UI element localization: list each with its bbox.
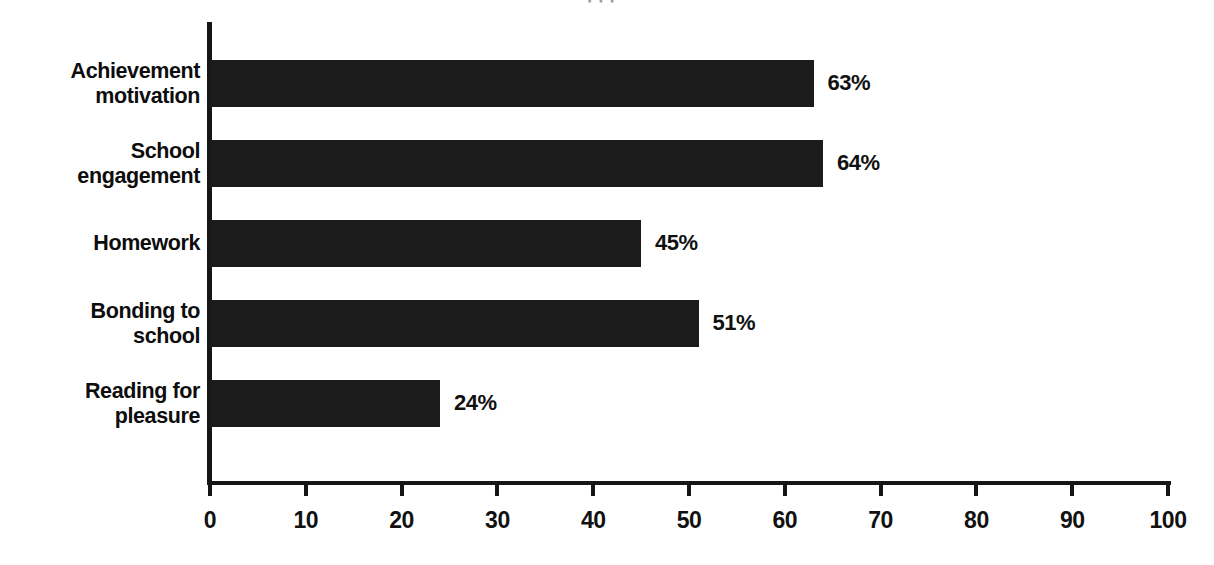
bar-1[interactable] [210,140,823,187]
x-tick-label-50: 50 [649,507,729,534]
x-tick-90 [1070,483,1074,496]
bar-value-label-4: 24% [454,390,497,416]
x-tick-0 [208,483,212,496]
x-tick-label-80: 80 [936,507,1016,534]
x-tick-label-60: 60 [745,507,825,534]
x-tick-label-10: 10 [266,507,346,534]
x-tick-70 [879,483,883,496]
x-tick-100 [1166,483,1170,496]
x-tick-label-90: 90 [1032,507,1112,534]
bar-chart: ' ' ' , 0102030405060708090100 Achieveme… [0,0,1214,565]
bar-0[interactable] [210,60,814,107]
x-tick-60 [783,483,787,496]
bar-row: School engagement64% [0,126,1214,187]
category-label-3: Bonding to school [0,299,200,349]
category-label-0: Achievement motivation [0,59,200,109]
bar-value-label-3: 51% [713,310,756,336]
x-tick-10 [304,483,308,496]
category-label-1: School engagement [0,139,200,189]
cropped-title-remnant: ' ' ' , [0,0,1214,7]
bar-row: Reading for pleasure24% [0,366,1214,427]
x-tick-label-30: 30 [457,507,537,534]
x-tick-label-0: 0 [170,507,250,534]
x-tick-label-100: 100 [1128,507,1208,534]
bar-value-label-2: 45% [655,230,698,256]
bar-row: Homework45% [0,206,1214,267]
x-tick-80 [974,483,978,496]
category-label-2: Homework [0,231,200,256]
bar-value-label-1: 64% [837,150,880,176]
x-tick-20 [400,483,404,496]
bar-row: Bonding to school51% [0,286,1214,347]
x-tick-50 [687,483,691,496]
x-tick-label-40: 40 [553,507,633,534]
x-tick-40 [591,483,595,496]
x-tick-label-20: 20 [362,507,442,534]
category-label-4: Reading for pleasure [0,379,200,429]
bar-value-label-0: 63% [828,70,871,96]
x-tick-30 [495,483,499,496]
bar-3[interactable] [210,300,699,347]
x-tick-label-70: 70 [841,507,921,534]
bar-2[interactable] [210,220,641,267]
bar-4[interactable] [210,380,440,427]
bar-row: Achievement motivation63% [0,46,1214,107]
